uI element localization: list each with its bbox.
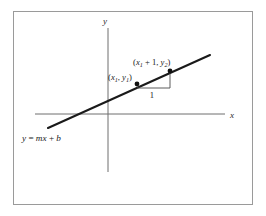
eq-var-b: b: [56, 133, 61, 143]
point-label-lower: (x1, y1): [108, 72, 132, 83]
figure-canvas: y x 1 (x1, y1) (x1 + 1, y2) y = mx + b: [0, 0, 266, 216]
point-marker-upper: [168, 69, 173, 74]
paren-close-upper: ): [167, 57, 170, 67]
plus-one-upper: + 1,: [143, 57, 161, 67]
y-axis-label: y: [102, 16, 107, 26]
figure-frame: [14, 12, 253, 205]
eq-equals: =: [26, 133, 36, 143]
point-marker-lower: [135, 82, 140, 87]
run-length-label: 1: [150, 90, 154, 100]
line-equation-label: y = mx + b: [21, 133, 61, 143]
slope-diagram-figure: y x 1 (x1, y1) (x1 + 1, y2) y = mx + b: [0, 0, 266, 216]
eq-plus: +: [47, 133, 57, 143]
x-axis-label: x: [229, 110, 234, 120]
paren-close-lower: ): [129, 72, 132, 82]
